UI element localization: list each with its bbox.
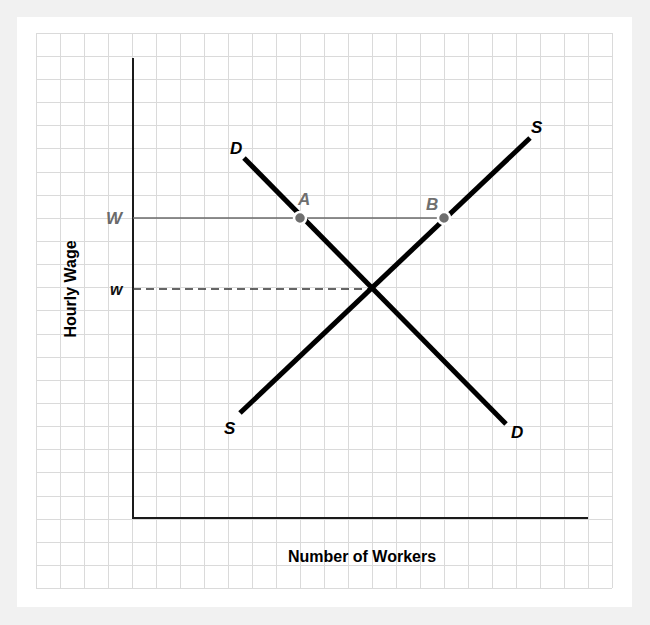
x-axis-title: Number of Workers [288,548,436,565]
y-axis-title: Hourly Wage [62,240,79,337]
high-wage-label: W [106,209,124,228]
point-b [438,212,450,224]
supply-label-top: S [531,118,543,137]
grid [36,33,612,588]
point-b-label: B [426,195,438,214]
point-a-label: A [297,190,310,209]
demand-label-top: D [230,139,242,158]
supply-label-bottom: S [224,419,236,438]
labor-market-diagram: A B W w D D S S Number of Workers Hourly… [0,0,650,625]
point-a [294,212,306,224]
equilibrium-wage-label: w [110,281,124,298]
supply-curve [240,138,530,413]
demand-label-bottom: D [511,423,523,442]
